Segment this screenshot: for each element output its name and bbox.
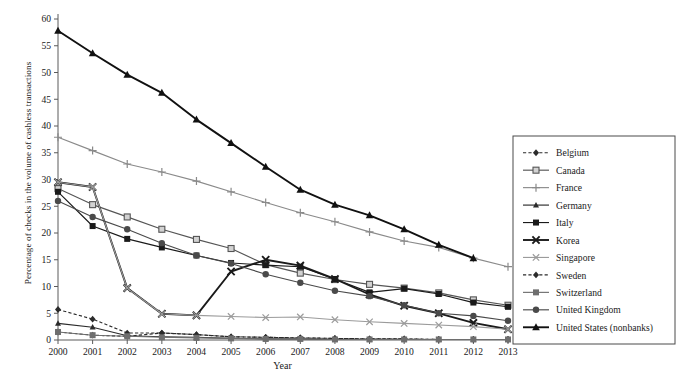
y-tick-label: 50 [41, 67, 51, 78]
data-point-marker [262, 271, 268, 277]
data-point-marker [400, 237, 408, 245]
chart-container: Percentage of checks in the volume of ca… [0, 0, 678, 381]
x-tick-label: 2005 [221, 346, 240, 357]
data-point-marker [159, 240, 165, 246]
data-point-marker [228, 246, 234, 252]
legend-label: Singapore [556, 252, 595, 263]
data-point-marker [89, 147, 97, 155]
data-point-marker [332, 336, 338, 342]
legend-label: France [556, 182, 582, 193]
x-tick-label: 2002 [118, 346, 137, 357]
data-point-marker [55, 329, 61, 335]
y-tick-label: 15 [41, 254, 51, 265]
y-tick-label: 55 [41, 40, 51, 51]
data-point-marker [193, 335, 199, 341]
y-tick-label: 10 [41, 281, 51, 292]
y-tick-label: 0 [46, 334, 51, 345]
data-point-marker [159, 226, 165, 232]
data-point-marker [90, 332, 96, 338]
legend-label: Belgium [556, 147, 590, 158]
legend-label: Italy [556, 217, 574, 228]
data-point-marker [54, 27, 62, 34]
x-tick-label: 2001 [83, 346, 102, 357]
legend-label: Sweden [556, 270, 587, 281]
data-point-marker [436, 336, 442, 342]
legend-label: Canada [556, 165, 586, 176]
data-point-marker [123, 71, 131, 78]
series-line [58, 31, 473, 258]
data-point-marker [297, 336, 303, 342]
data-point-marker [366, 228, 374, 236]
x-tick-label: 2013 [498, 346, 517, 357]
x-tick-label: 2007 [291, 346, 310, 357]
data-point-marker [227, 188, 235, 196]
data-point-marker [297, 280, 303, 286]
x-tick-label: 2009 [360, 346, 379, 357]
y-tick-label: 45 [41, 94, 51, 105]
data-point-marker [297, 186, 305, 193]
data-point-marker [124, 214, 130, 220]
chart-legend: BelgiumCanadaFranceGermanyItalyKoreaSing… [513, 136, 675, 344]
series-korea [54, 179, 511, 333]
data-point-marker [124, 236, 130, 242]
data-point-marker [533, 220, 539, 226]
data-point-marker [296, 209, 304, 217]
y-tick-label: 35 [41, 147, 51, 158]
data-point-marker [436, 291, 442, 297]
data-point-marker [90, 316, 96, 323]
legend-label: United Kingdom [556, 304, 621, 315]
data-point-marker [262, 199, 270, 207]
x-tick-label: 2011 [429, 346, 448, 357]
data-point-marker [55, 306, 61, 313]
data-point-marker [401, 302, 407, 308]
y-tick-label: 5 [46, 308, 51, 319]
legend-label: Korea [556, 235, 580, 246]
data-point-marker [89, 49, 97, 56]
series-italy [55, 189, 511, 310]
data-point-marker [193, 236, 199, 242]
data-point-marker [470, 313, 476, 319]
data-point-marker [332, 288, 338, 294]
data-point-marker [89, 214, 95, 220]
data-point-marker [470, 336, 476, 342]
data-point-marker [504, 263, 512, 271]
data-point-marker [367, 281, 373, 287]
x-tick-label: 2000 [48, 346, 67, 357]
data-point-marker [228, 335, 234, 341]
y-tick-label: 30 [41, 174, 51, 185]
data-point-marker [533, 167, 539, 173]
legend-label: United States (nonbanks) [556, 322, 653, 334]
data-point-marker [193, 252, 199, 258]
data-point-marker [533, 289, 539, 295]
data-point-marker [192, 177, 200, 185]
data-point-marker [401, 336, 407, 342]
data-point-marker [124, 226, 130, 232]
data-point-marker [366, 293, 372, 299]
data-point-marker [55, 189, 61, 195]
series-belgium [55, 306, 511, 343]
data-point-marker [505, 304, 511, 310]
data-point-marker [228, 260, 234, 266]
data-point-marker [263, 336, 269, 342]
x-tick-label: 2008 [325, 346, 344, 357]
data-point-marker [367, 336, 373, 342]
data-point-marker [297, 270, 303, 276]
data-point-marker [331, 218, 339, 226]
line-chart-plot: 0510152025303540455055602000200120022003… [0, 0, 678, 381]
data-point-marker [436, 310, 442, 316]
data-point-marker [158, 168, 166, 176]
data-point-marker [90, 202, 96, 208]
x-tick-label: 2012 [464, 346, 483, 357]
series-france [54, 133, 512, 270]
y-tick-label: 60 [41, 13, 51, 24]
y-tick-label: 25 [41, 201, 51, 212]
series-singapore [55, 179, 511, 333]
data-point-marker [55, 320, 61, 326]
legend-label: Switzerland [556, 287, 602, 298]
data-point-marker [90, 223, 96, 229]
data-point-marker [123, 160, 131, 168]
series-line [58, 182, 508, 329]
x-tick-label: 2006 [256, 346, 275, 357]
data-point-marker [505, 318, 511, 324]
data-point-marker [401, 286, 407, 292]
